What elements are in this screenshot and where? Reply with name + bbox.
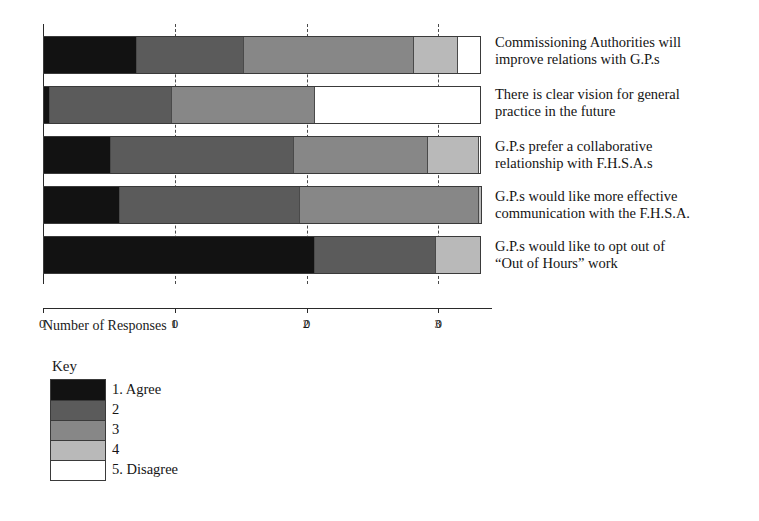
stacked-bar-chart-figure: 0102030 Commissioning Authorities willim… (0, 0, 759, 521)
bar-segment (427, 137, 478, 173)
bar-segment (44, 137, 110, 173)
bar-segment (314, 87, 479, 123)
bar-segment (119, 187, 299, 223)
category-label: Commissioning Authorities willimprove re… (495, 34, 753, 68)
bar-row (43, 136, 481, 174)
legend-title: Key (50, 358, 77, 375)
legend-label: 1. Agree (112, 379, 178, 399)
category-label: G.P.s would like to opt out of“Out of Ho… (495, 238, 753, 272)
bar-row (43, 236, 481, 274)
bar-segment (49, 87, 171, 123)
category-label-line: improve relations with G.P.s (495, 51, 753, 68)
x-axis-title: Number of Responses (43, 318, 167, 334)
legend-label: 3 (112, 419, 178, 439)
x-axis-line (43, 308, 492, 309)
bar-segment (314, 237, 435, 273)
category-label-line: G.P.s would like to opt out of (495, 238, 753, 255)
category-label-line: relationship with F.H.S.A.s (495, 155, 753, 172)
x-tick-0 (43, 308, 44, 313)
x-tick-30 (438, 308, 439, 313)
bar-row (43, 86, 481, 124)
legend-swatch (51, 400, 105, 420)
legend-swatch (51, 440, 105, 460)
bar-segment (44, 37, 136, 73)
x-tick-label-30: 30 (434, 316, 436, 331)
legend-label-column: 1. Agree2345. Disagree (112, 379, 178, 479)
bar-segment (293, 137, 427, 173)
bar-segment (110, 137, 294, 173)
bar-segment (136, 37, 244, 73)
category-label: G.P.s prefer a collaborativerelationship… (495, 138, 753, 172)
category-label-line: There is clear vision for general (495, 86, 753, 103)
category-label: There is clear vision for generalpractic… (495, 86, 753, 120)
bar-segment (457, 37, 479, 73)
x-tick-10 (175, 308, 176, 313)
bar-row (43, 186, 482, 224)
bar-segment (299, 187, 479, 223)
bar-segment (478, 187, 481, 223)
x-tick-20 (307, 308, 308, 313)
plot-area: 0102030 (43, 24, 478, 284)
bar-segment (478, 137, 479, 173)
legend-label: 4 (112, 439, 178, 459)
category-label-line: communication with the F.H.S.A. (495, 205, 753, 222)
category-label-line: G.P.s would like more effective (495, 188, 753, 205)
legend-label: 5. Disagree (112, 459, 178, 479)
x-tick-label-20: 20 (303, 316, 305, 331)
category-label-line: “Out of Hours” work (495, 255, 753, 272)
bar-segment (44, 237, 314, 273)
x-tick-label-10: 10 (171, 316, 173, 331)
bar-segment (435, 237, 480, 273)
bar-segment (171, 87, 314, 123)
legend-swatch (51, 460, 105, 480)
category-label-line: practice in the future (495, 103, 753, 120)
bar-segment (44, 187, 119, 223)
legend-swatch-column (50, 379, 106, 481)
x-tick-label-0: 0 (39, 316, 40, 331)
legend-swatch (51, 420, 105, 440)
legend: Key 1. Agree2345. Disagree (50, 358, 77, 379)
category-label-line: G.P.s prefer a collaborative (495, 138, 753, 155)
bar-segment (243, 37, 412, 73)
bar-segment (413, 37, 458, 73)
category-label: G.P.s would like more effectivecommunica… (495, 188, 753, 222)
legend-swatch (51, 380, 105, 400)
category-label-line: Commissioning Authorities will (495, 34, 753, 51)
bar-row (43, 36, 481, 74)
legend-label: 2 (112, 399, 178, 419)
